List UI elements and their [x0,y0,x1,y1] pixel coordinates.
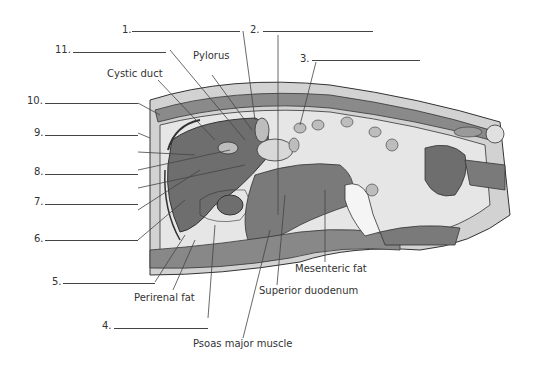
blank-4-line[interactable] [114,328,208,329]
superficial-vessel [486,125,504,143]
blank-5-number: 5. [52,276,62,288]
duodenum-loop [257,139,293,161]
superficial-muscle [454,127,482,137]
blank-4-number: 4. [102,320,112,332]
blank-3-line[interactable] [312,60,420,61]
blank-7-number: 7. [34,196,44,208]
label-mesenteric-fat: Mesenteric fat [295,263,367,275]
label-cystic-duct: Cystic duct [107,68,163,80]
blank-8-number: 8. [34,166,44,178]
bowel-loop [289,138,299,152]
cross-section-illustration [0,0,533,368]
blank-8-line[interactable] [45,174,138,175]
bowel-loop [369,127,381,137]
pylorus-structure [255,118,269,142]
blank-10-number: 10. [27,95,43,107]
blank-1-number: 1. [122,24,132,36]
blank-3-number: 3. [300,53,310,65]
blank-2-line[interactable] [263,31,373,32]
anatomy-diagram: 1. 2. 3. 4. 5. 6. 7. 8. 9. 10. 11. Pylor… [0,0,533,368]
label-pylorus: Pylorus [193,50,230,62]
blank-5-line[interactable] [63,283,155,284]
blank-11-line[interactable] [73,52,166,53]
blank-1-line[interactable] [132,31,240,32]
bowel-loop [312,120,324,130]
blank-9-number: 9. [34,127,44,139]
right-muscle-tail [465,160,505,190]
blank-2-number: 2. [250,24,260,36]
blank-11-number: 11. [55,44,71,56]
label-psoas-major-muscle: Psoas major muscle [193,338,292,350]
bowel-loop [341,117,353,127]
blank-7-line[interactable] [45,204,138,205]
blank-6-line[interactable] [45,240,138,241]
kidney [217,195,243,215]
blank-6-number: 6. [34,233,44,245]
bowel-loop [386,139,398,151]
label-superior-duodenum: Superior duodenum [259,285,358,297]
blank-10-line[interactable] [45,103,138,104]
label-perirenal-fat: Perirenal fat [134,292,195,304]
blank-9-line[interactable] [45,135,138,136]
